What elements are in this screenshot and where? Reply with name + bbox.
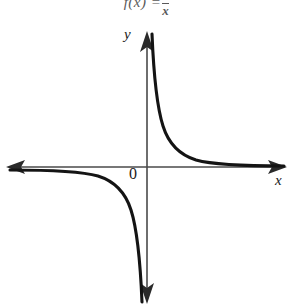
- curve-branch-quadrant-1: [152, 34, 284, 166]
- figure-canvas: f(x) =kx y x 0: [0, 0, 294, 305]
- hyperbola-plot: [0, 0, 294, 305]
- x-axis-label: x: [275, 172, 282, 189]
- curve-branch-quadrant-3: [10, 170, 142, 302]
- origin-label: 0: [129, 165, 137, 183]
- y-axis-label: y: [124, 26, 131, 43]
